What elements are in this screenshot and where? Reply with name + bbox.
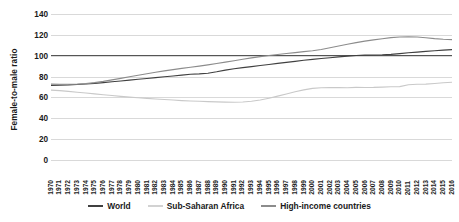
x-tick-label: 1988 [205, 180, 212, 195]
x-tick-label: 1983 [161, 180, 168, 195]
series-line-sub-saharan-africa [51, 82, 452, 102]
legend-item[interactable]: High-income countries [261, 201, 371, 211]
x-tick-label: 1978 [117, 180, 124, 195]
x-tick-label: 1981 [144, 180, 151, 195]
x-tick-label: 1971 [56, 180, 63, 195]
x-tick-label: 2016 [449, 180, 456, 195]
x-tick-label: 2008 [379, 180, 386, 195]
x-tick-label: 1996 [274, 180, 281, 195]
x-tick-label: 1994 [257, 180, 264, 195]
x-tick-label: 1997 [283, 180, 290, 195]
chart-container: Female-to-male ratio 020406080100120140 … [0, 0, 459, 222]
x-tick-label: 1977 [109, 180, 116, 195]
x-tick-label: 2012 [414, 180, 421, 195]
x-tick-label: 1989 [213, 180, 220, 195]
y-tick-label: 40 [2, 114, 48, 123]
x-tick-label: 1980 [135, 180, 142, 195]
x-tick-label: 2000 [309, 180, 316, 195]
x-tick-label: 2013 [423, 180, 430, 195]
legend-label: High-income countries [280, 201, 371, 211]
x-tick-label: 1990 [222, 180, 229, 195]
x-tick-label: 2005 [353, 180, 360, 195]
x-tick-label: 1985 [178, 180, 185, 195]
x-tick-label: 2004 [344, 180, 351, 195]
legend-label: World [107, 201, 131, 211]
y-tick-label: 20 [2, 135, 48, 144]
x-tick-label: 1992 [239, 180, 246, 195]
x-tick-label: 2014 [431, 180, 438, 195]
series-line-high-income-countries [51, 37, 452, 85]
legend-item[interactable]: World [88, 201, 131, 211]
x-tick-label: 1973 [74, 180, 81, 195]
x-tick-label: 2002 [327, 180, 334, 195]
x-tick-label: 1987 [196, 180, 203, 195]
y-axis-tick-labels: 020406080100120140 [0, 14, 48, 160]
plot-area [51, 14, 452, 160]
x-tick-label: 1974 [83, 180, 90, 195]
legend-item[interactable]: Sub-Saharan Africa [148, 201, 244, 211]
x-tick-label: 2006 [362, 180, 369, 195]
x-tick-label: 1979 [126, 180, 133, 195]
legend-swatch-icon [148, 205, 163, 207]
x-tick-label: 1976 [100, 180, 107, 195]
x-tick-label: 1970 [48, 180, 55, 195]
legend-swatch-icon [88, 205, 103, 207]
x-tick-label: 1982 [152, 180, 159, 195]
x-tick-label: 2009 [388, 180, 395, 195]
x-tick-label: 1993 [248, 180, 255, 195]
y-tick-label: 0 [2, 156, 48, 165]
x-tick-label: 2011 [405, 181, 412, 195]
x-tick-label: 1999 [301, 180, 308, 195]
y-tick-label: 120 [2, 30, 48, 39]
x-tick-label: 1991 [231, 180, 238, 195]
legend-label: Sub-Saharan Africa [167, 201, 244, 211]
legend-swatch-icon [261, 205, 276, 207]
x-tick-label: 1995 [266, 180, 273, 195]
x-tick-label: 2007 [370, 180, 377, 195]
y-tick-label: 60 [2, 93, 48, 102]
x-tick-label: 1972 [65, 180, 72, 195]
chart-legend: WorldSub-Saharan AfricaHigh-income count… [0, 198, 459, 214]
x-tick-label: 1986 [187, 180, 194, 195]
x-axis-tick-labels: 1970197119721973197419751976197719781979… [51, 161, 452, 195]
x-tick-label: 1984 [170, 180, 177, 195]
x-tick-label: 2010 [396, 180, 403, 195]
x-tick-label: 2001 [318, 180, 325, 195]
y-tick-label: 80 [2, 72, 48, 81]
y-tick-label: 100 [2, 51, 48, 60]
x-tick-label: 2015 [440, 180, 447, 195]
x-tick-label: 1998 [292, 180, 299, 195]
x-tick-label: 2003 [335, 180, 342, 195]
series-lines [51, 14, 452, 160]
x-tick-label: 1975 [91, 180, 98, 195]
y-tick-label: 140 [2, 10, 48, 19]
